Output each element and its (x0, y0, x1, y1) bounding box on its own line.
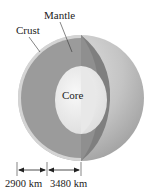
mantle-label: Mantle (44, 9, 75, 21)
crust-leader-line (29, 37, 40, 52)
core-dimension-arrow (48, 168, 80, 173)
mantle-dimension-arrow (18, 168, 46, 173)
core-label: Core (62, 89, 83, 101)
crust-label: Crust (16, 24, 40, 36)
core-radius-label: 3480 km (50, 178, 87, 189)
mantle-thickness-label: 2900 km (5, 178, 42, 189)
